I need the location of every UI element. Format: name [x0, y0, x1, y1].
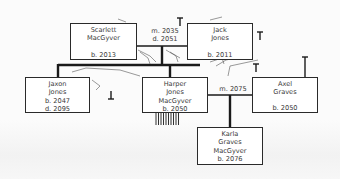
person-name-line2: MacGyver	[87, 34, 120, 42]
person-box-scarlett[interactable]: Scarlett MacGyver b. 2013	[70, 23, 137, 60]
person-name-line1: Jaxon	[49, 80, 67, 88]
person-name-line3: MacGyver	[213, 147, 246, 155]
person-box-harper[interactable]: Harper Jones MacGyver b. 2050	[142, 77, 208, 113]
decorative-bristles	[156, 113, 179, 125]
union-divorced: d. 2051	[148, 35, 182, 43]
person-box-karla[interactable]: Karla Graves MacGyver b. 2076	[197, 127, 263, 165]
union-married: m. 2075	[215, 85, 251, 93]
family-tree-diagram: Scarlett MacGyver b. 2013 Jack Jones b. …	[0, 0, 340, 179]
person-name-line1: Jack	[213, 26, 226, 34]
person-died: d. 2095	[45, 105, 70, 113]
person-box-jaxon[interactable]: Jaxon Jones b. 2047 d. 2095	[25, 77, 90, 113]
person-name-line2: Jones	[211, 34, 229, 42]
person-born: b. 2076	[217, 155, 242, 163]
person-name-line3: MacGyver	[158, 97, 191, 105]
person-born: b. 2047	[45, 97, 70, 105]
person-name-line1: Karla	[222, 130, 239, 138]
person-box-jack[interactable]: Jack Jones b. 2011	[187, 23, 253, 60]
union-married: m. 2035	[148, 27, 182, 35]
person-born: b. 2050	[162, 105, 187, 113]
person-name-line2: Jones	[49, 88, 67, 96]
person-name-line1: Axel	[278, 80, 292, 88]
person-name-line2: Jones	[166, 88, 184, 96]
union-label-harper-axel: m. 2075	[215, 85, 251, 93]
person-name-line2: Graves	[273, 88, 296, 96]
person-box-axel[interactable]: Axel Graves b. 2050	[252, 77, 318, 113]
union-label-scarlett-jack: m. 2035 d. 2051	[148, 27, 182, 44]
person-born: b. 2013	[91, 51, 116, 59]
person-name-line1: Harper	[164, 80, 187, 88]
person-name-line2: Graves	[218, 138, 241, 146]
person-born: b. 2050	[272, 104, 297, 112]
person-born: b. 2011	[207, 51, 232, 59]
person-name-line1: Scarlett	[91, 26, 117, 34]
